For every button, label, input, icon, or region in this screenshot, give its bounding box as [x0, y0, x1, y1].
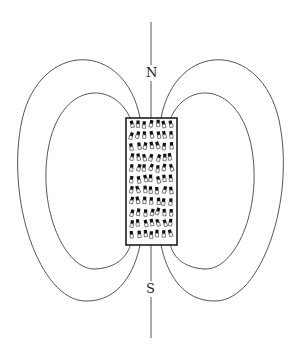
domain-dipole: [155, 187, 158, 194]
field-line-right-inner: [170, 93, 254, 269]
domain-dipole: [137, 231, 141, 238]
domain-dipole: [155, 230, 158, 237]
domain-dipole: [163, 154, 166, 161]
domain-dipole: [157, 120, 160, 127]
domain-dipole: [143, 186, 147, 193]
south-pole-label: S: [146, 281, 155, 297]
domain-dipole: [143, 131, 146, 138]
field-line-left-outer: [18, 60, 140, 301]
field-line-right-outer: [161, 60, 283, 301]
domain-dipole: [170, 209, 173, 216]
domain-dipole: [144, 209, 147, 216]
domain-dipole: [149, 186, 153, 193]
domain-dipole: [149, 175, 152, 182]
domain-dipole: [162, 230, 165, 237]
domain-dipole: [157, 197, 161, 204]
domain-dipole: [136, 219, 139, 226]
north-pole-label: N: [146, 65, 157, 81]
domain-dipole: [162, 209, 166, 216]
domain-dipole: [156, 165, 160, 172]
domain-dipole: [142, 164, 146, 171]
magnet-diagram: [0, 0, 297, 356]
domain-dipole: [149, 231, 153, 238]
field-line-left-inner: [46, 93, 131, 269]
domain-dipole: [136, 120, 139, 127]
domain-dipole: [143, 196, 147, 203]
domain-dipole: [170, 142, 173, 149]
domain-dipole: [142, 121, 146, 128]
domain-dipole: [150, 197, 153, 204]
